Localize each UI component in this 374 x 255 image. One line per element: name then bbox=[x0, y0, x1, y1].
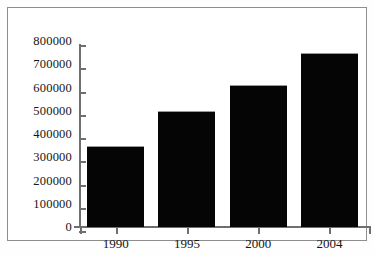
x-axis-tick bbox=[258, 228, 260, 234]
x-axis-tick-labels: 1990199520002004 bbox=[80, 236, 370, 254]
bar bbox=[87, 146, 144, 227]
y-axis-tick-label: 600000 bbox=[33, 80, 72, 95]
y-axis-tick-label: 400000 bbox=[33, 127, 72, 142]
y-axis-tick-label: 500000 bbox=[33, 103, 72, 118]
x-axis-tick bbox=[329, 228, 331, 234]
chart-frame: 0100000200000300000400000500000600000700… bbox=[7, 7, 367, 241]
y-axis-tick-label: 300000 bbox=[33, 150, 72, 165]
bar bbox=[301, 53, 358, 227]
y-axis-tick-label: 700000 bbox=[33, 57, 72, 72]
y-axis-tick-label: 100000 bbox=[33, 196, 72, 211]
x-axis-tick-label: 1995 bbox=[174, 236, 200, 252]
x-axis-tick-label: 2000 bbox=[245, 236, 271, 252]
x-axis-ticks bbox=[80, 228, 370, 236]
x-axis-tick bbox=[116, 228, 118, 234]
chart-figure: 0100000200000300000400000500000600000700… bbox=[0, 0, 374, 255]
y-axis-tick-label: 0 bbox=[66, 220, 72, 235]
bar bbox=[230, 85, 287, 227]
x-axis-edge-tick bbox=[369, 228, 371, 234]
x-axis-tick-label: 1990 bbox=[103, 236, 129, 252]
y-axis-tick-labels: 0100000200000300000400000500000600000700… bbox=[8, 41, 72, 227]
bar bbox=[158, 111, 215, 227]
x-axis-tick bbox=[187, 228, 189, 234]
x-axis-edge-tick bbox=[80, 228, 82, 234]
y-axis-tick-label: 800000 bbox=[33, 34, 72, 49]
x-axis-tick-label: 2004 bbox=[316, 236, 342, 252]
plot-area bbox=[80, 41, 365, 227]
y-axis-tick-label: 200000 bbox=[33, 173, 72, 188]
